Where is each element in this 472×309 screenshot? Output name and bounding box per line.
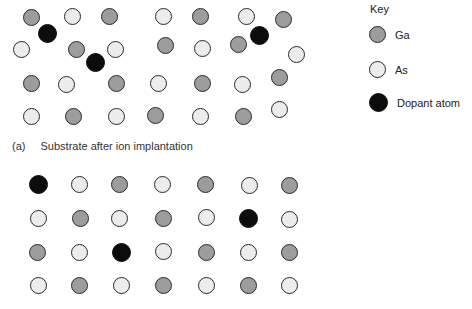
dopant-atom-icon <box>29 175 48 194</box>
ga-atom-icon <box>72 210 89 227</box>
as-atom-icon <box>71 244 88 261</box>
dopant-atom-icon <box>369 93 388 112</box>
ga-atom-icon <box>240 277 257 294</box>
as-atom-icon <box>198 209 215 226</box>
key-item-dopant: Dopant atom <box>369 93 460 112</box>
key-label-dopant: Dopant atom <box>397 97 460 109</box>
caption-a: (a) Substrate after ion implantation <box>12 140 193 152</box>
ga-atom-icon <box>197 176 214 193</box>
ga-atom-icon <box>155 277 172 294</box>
key-label-as: As <box>395 64 408 76</box>
key-item-ga: Ga <box>369 26 410 43</box>
as-atom-icon <box>281 277 298 294</box>
dopant-atom-icon <box>112 243 131 262</box>
key-title: Key <box>370 3 389 15</box>
ga-atom-icon <box>281 244 298 261</box>
as-atom-icon <box>113 277 130 294</box>
as-atom-icon <box>71 176 88 193</box>
as-atom-icon <box>369 61 386 78</box>
key-label-ga: Ga <box>395 29 410 41</box>
as-atom-icon <box>30 277 47 294</box>
as-atom-icon <box>281 211 298 228</box>
ga-atom-icon <box>281 177 298 194</box>
caption-text: Substrate after ion implantation <box>41 140 193 152</box>
ga-atom-icon <box>71 277 88 294</box>
ga-atom-icon <box>155 210 172 227</box>
caption-tag: (a) <box>12 140 25 152</box>
as-atom-icon <box>154 176 171 193</box>
as-atom-icon <box>241 177 258 194</box>
as-atom-icon <box>155 243 172 260</box>
ga-atom-icon <box>29 244 46 261</box>
as-atom-icon <box>240 244 257 261</box>
lattice-after-annealing <box>0 0 320 309</box>
ga-atom-icon <box>111 176 128 193</box>
as-atom-icon <box>198 277 215 294</box>
key-item-as: As <box>369 61 408 78</box>
ga-atom-icon <box>369 26 386 43</box>
ga-atom-icon <box>198 244 215 261</box>
dopant-atom-icon <box>239 209 258 228</box>
as-atom-icon <box>30 210 47 227</box>
as-atom-icon <box>111 210 128 227</box>
